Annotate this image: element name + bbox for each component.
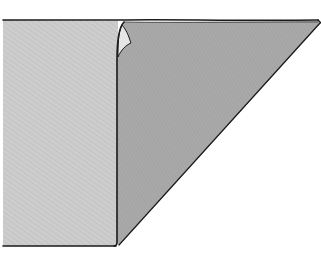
folded-fabric-diagram — [0, 0, 321, 257]
folded-flap — [117, 21, 320, 245]
flat-panel — [3, 20, 118, 246]
